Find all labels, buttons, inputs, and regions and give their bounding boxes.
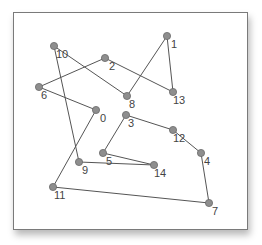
node-label: 4: [204, 155, 210, 167]
node-label: 10: [56, 48, 68, 60]
node-3: 3: [122, 111, 134, 129]
node-2: 2: [101, 54, 115, 72]
node-7: 7: [205, 199, 218, 217]
node-label: 3: [128, 117, 134, 129]
node-8: 8: [123, 92, 135, 110]
graph-canvas: 01234567891011121314: [0, 0, 262, 245]
node-label: 8: [129, 98, 135, 110]
node-label: 11: [54, 189, 65, 201]
node-marker: [92, 106, 99, 113]
node-4: 4: [197, 149, 210, 167]
edges-layer: [39, 36, 209, 203]
nodes-layer: 01234567891011121314: [35, 32, 218, 217]
node-9: 9: [75, 158, 88, 176]
node-12: 12: [169, 126, 185, 144]
node-label: 12: [173, 132, 185, 144]
node-marker: [163, 32, 170, 39]
edge-11-7: [53, 187, 209, 203]
edge-0-11: [53, 110, 96, 187]
node-1: 1: [163, 32, 177, 50]
node-11: 11: [49, 183, 65, 201]
node-label: 1: [171, 38, 177, 50]
node-marker: [101, 54, 108, 61]
edge-3-5: [103, 115, 126, 153]
node-label: 7: [212, 205, 218, 217]
edge-13-2: [105, 58, 173, 92]
node-5: 5: [99, 149, 112, 167]
node-label: 5: [106, 155, 112, 167]
edge-8-1: [127, 36, 167, 96]
node-label: 14: [154, 167, 166, 179]
node-label: 6: [41, 89, 47, 101]
node-label: 0: [100, 112, 106, 124]
node-13: 13: [169, 88, 185, 106]
edge-2-6: [39, 58, 105, 87]
node-0: 0: [92, 106, 106, 124]
node-14: 14: [150, 161, 166, 179]
node-label: 9: [82, 164, 88, 176]
node-label: 13: [173, 94, 185, 106]
node-10: 10: [50, 42, 68, 60]
edge-9-10: [54, 46, 79, 162]
node-label: 2: [109, 60, 115, 72]
node-6: 6: [35, 83, 47, 101]
